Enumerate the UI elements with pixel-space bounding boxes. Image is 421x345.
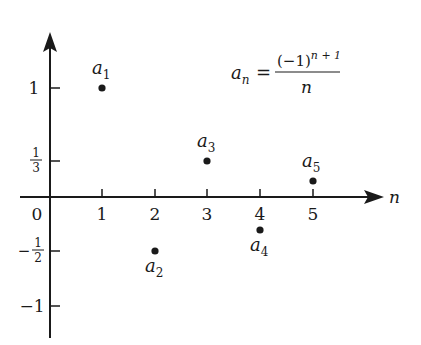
point-label-a5: a5	[302, 150, 320, 175]
y-tick-label: −1	[19, 296, 44, 316]
point-labels: a1 a2 a3 a4 a5	[92, 57, 320, 280]
sequence-plot: 0 1 2 3 4 5 n 1 1 3 − 1	[0, 0, 421, 345]
formula-annotation: an = (−1)n + 1 n	[231, 49, 341, 97]
x-tick-label: 3	[202, 204, 213, 224]
x-tick-label: 2	[150, 204, 161, 224]
point-label-a1: a1	[92, 57, 110, 82]
x-tick-label: 1	[97, 204, 108, 224]
y-tick-label-fraction: − 1 2	[18, 236, 44, 265]
axes	[20, 32, 384, 338]
y-tick-label: 1	[29, 78, 40, 98]
formula-numerator: (−1)n + 1	[277, 49, 341, 70]
data-point-a5	[309, 177, 316, 184]
point-label-a4: a4	[250, 234, 269, 259]
svg-text:3: 3	[32, 161, 40, 175]
svg-text:1: 1	[34, 236, 42, 250]
point-label-a2: a2	[145, 255, 163, 280]
svg-text:2: 2	[34, 251, 42, 265]
svg-text:−: −	[18, 242, 31, 260]
data-points	[98, 84, 316, 254]
x-axis-label: n	[389, 187, 400, 207]
point-label-a3: a3	[197, 130, 215, 155]
data-point-a2	[151, 247, 158, 254]
x-tick-label: 5	[308, 204, 319, 224]
data-point-a1	[98, 84, 105, 91]
y-tick-label-fraction: 1 3	[30, 146, 42, 175]
equals-sign: =	[256, 62, 271, 83]
data-point-a3	[203, 157, 210, 164]
x-ticks	[102, 189, 313, 197]
x-tick-labels: 0 1 2 3 4 5	[32, 204, 319, 224]
x-tick-label: 4	[255, 204, 266, 224]
formula-denominator: n	[301, 77, 312, 97]
origin-label: 0	[32, 204, 43, 224]
data-point-a4	[256, 226, 263, 233]
svg-text:an: an	[231, 62, 249, 87]
svg-text:1: 1	[32, 146, 40, 160]
